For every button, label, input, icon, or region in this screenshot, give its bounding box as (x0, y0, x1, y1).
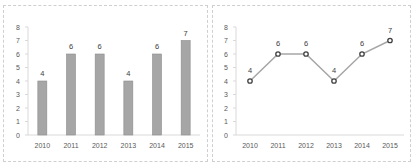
data-label: 7 (184, 29, 188, 38)
y-tick-label: 1 (224, 118, 228, 125)
y-tick-label: 6 (16, 51, 20, 58)
y-tick-label: 6 (224, 51, 228, 58)
series-line (250, 41, 390, 82)
x-tick-label: 2012 (92, 142, 108, 149)
x-tick-label: 2015 (382, 142, 398, 149)
x-tick-label: 2010 (35, 142, 51, 149)
y-tick-label: 2 (16, 105, 20, 112)
data-label: 7 (388, 26, 392, 35)
data-point-marker (332, 79, 336, 83)
x-tick-label: 2013 (121, 142, 137, 149)
y-tick-label: 7 (16, 37, 20, 44)
line-chart-panel: 012345678201020112012201320142015466467 (212, 5, 411, 162)
data-label: 4 (332, 66, 336, 75)
y-tick-label: 5 (224, 64, 228, 71)
y-tick-label: 7 (224, 37, 228, 44)
data-label: 6 (276, 39, 280, 48)
x-tick-label: 2011 (270, 142, 285, 149)
bar (67, 54, 76, 135)
bar (124, 81, 133, 135)
bar (95, 54, 104, 135)
bar (38, 81, 47, 135)
x-tick-label: 2013 (326, 142, 342, 149)
x-tick-label: 2012 (298, 142, 314, 149)
bar (181, 41, 190, 136)
y-tick-label: 0 (16, 132, 20, 139)
data-label: 6 (304, 39, 308, 48)
y-tick-label: 8 (224, 24, 228, 31)
x-tick-label: 2010 (242, 142, 258, 149)
data-label: 4 (126, 69, 130, 78)
y-tick-label: 8 (16, 24, 20, 31)
y-tick-label: 4 (224, 78, 228, 85)
y-tick-label: 4 (16, 78, 20, 85)
bar-chart-panel: 012345678201020112012201320142015466467 (3, 5, 208, 162)
data-point-marker (304, 52, 308, 56)
y-tick-label: 2 (224, 105, 228, 112)
data-label: 6 (155, 42, 159, 51)
data-point-marker (248, 79, 252, 83)
x-tick-label: 2014 (354, 142, 370, 149)
data-label: 6 (360, 39, 364, 48)
data-label: 6 (98, 42, 102, 51)
data-label: 4 (248, 66, 252, 75)
x-tick-label: 2014 (149, 142, 165, 149)
line-chart: 012345678201020112012201320142015466467 (213, 6, 412, 163)
y-tick-label: 0 (224, 132, 228, 139)
x-tick-label: 2011 (63, 142, 78, 149)
data-point-marker (360, 52, 364, 56)
bar-chart: 012345678201020112012201320142015466467 (4, 6, 209, 163)
y-tick-label: 1 (16, 118, 20, 125)
x-tick-label: 2015 (178, 142, 194, 149)
data-label: 4 (40, 69, 44, 78)
y-tick-label: 3 (224, 91, 228, 98)
y-tick-label: 5 (16, 64, 20, 71)
data-point-marker (388, 38, 392, 42)
data-point-marker (276, 52, 280, 56)
y-tick-label: 3 (16, 91, 20, 98)
bar (153, 54, 162, 135)
data-label: 6 (69, 42, 73, 51)
